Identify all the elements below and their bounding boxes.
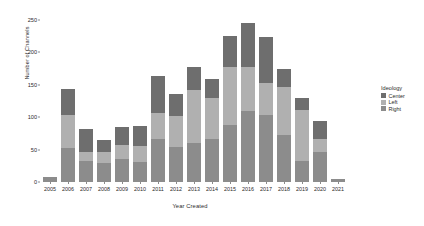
y-axis-tick-mark [38, 117, 40, 118]
x-axis-tick-mark [176, 182, 177, 184]
legend-item-label: Left [389, 99, 398, 105]
bar-2017 [259, 37, 273, 182]
x-axis-tick-mark [50, 182, 51, 184]
x-axis-tick-label: 2020 [314, 186, 326, 192]
x-axis-title: Year Created [40, 203, 340, 209]
bar-segment-center [259, 37, 273, 82]
bar-segment-center [295, 98, 309, 110]
bar-segment-right [205, 139, 219, 182]
bar-segment-right [97, 163, 111, 182]
bar-2009 [115, 127, 129, 182]
bar-segment-right [187, 143, 201, 182]
bar-2013 [187, 67, 201, 182]
bar-segment-center [79, 129, 93, 151]
legend-swatch-icon [381, 93, 386, 98]
legend-swatch-icon [381, 100, 386, 105]
bar-segment-center [97, 140, 111, 152]
x-axis-tick-mark [302, 182, 303, 184]
bar-segment-right [241, 111, 255, 182]
bar-segment-left [97, 152, 111, 163]
bar-2016 [241, 23, 255, 182]
bar-2014 [205, 79, 219, 182]
bar-segment-right [295, 161, 309, 182]
bar-segment-right [61, 148, 75, 182]
x-axis-tick-label: 2012 [170, 186, 182, 192]
x-axis-tick-label: 2017 [260, 186, 272, 192]
bar-segment-right [277, 135, 291, 182]
x-axis-tick-mark [230, 182, 231, 184]
bar-segment-center [115, 127, 129, 145]
bar-2010 [133, 126, 147, 182]
legend-item-center[interactable]: Center [381, 93, 405, 99]
bar-segment-center [61, 89, 75, 115]
legend-entries: CenterLeftRight [381, 93, 405, 112]
bar-segment-center [133, 126, 147, 147]
legend-item-left[interactable]: Left [381, 99, 405, 105]
x-axis-tick-label: 2019 [296, 186, 308, 192]
bar-2008 [97, 140, 111, 182]
bar-segment-left [115, 145, 129, 159]
x-axis-tick-label: 2011 [152, 186, 164, 192]
x-axis-tick-label: 2014 [206, 186, 218, 192]
bar-segment-center [151, 76, 165, 113]
x-axis-tick-mark [158, 182, 159, 184]
bar-segment-center [205, 79, 219, 98]
bar-segment-center [187, 67, 201, 90]
bar-segment-right [133, 162, 147, 182]
x-axis-tick-mark [122, 182, 123, 184]
bar-segment-left [277, 87, 291, 136]
x-axis-tick-label: 2018 [278, 186, 290, 192]
bar-segment-center [223, 36, 237, 66]
bar-segment-center [277, 69, 291, 87]
bar-2012 [169, 94, 183, 182]
bar-segment-left [295, 110, 309, 161]
x-axis-tick-label: 2007 [80, 186, 92, 192]
bar-2020 [313, 121, 327, 182]
bar-segment-left [61, 115, 75, 147]
y-axis-tick-mark [38, 19, 40, 20]
bar-2019 [295, 98, 309, 182]
y-axis-tick-mark [38, 149, 40, 150]
x-axis-tick-label: 2015 [224, 186, 236, 192]
bar-2015 [223, 36, 237, 182]
legend-item-right[interactable]: Right [381, 106, 405, 112]
bar-segment-right [115, 159, 129, 182]
bar-2018 [277, 69, 291, 182]
bar-2011 [151, 76, 165, 182]
bar-segment-center [313, 121, 327, 139]
bar-2007 [79, 129, 93, 182]
x-axis-tick-label: 2016 [242, 186, 254, 192]
legend-swatch-icon [381, 106, 386, 111]
x-axis-tick-mark [194, 182, 195, 184]
bar-segment-right [79, 161, 93, 182]
x-axis-tick-label: 2008 [98, 186, 110, 192]
bar-segment-left [151, 113, 165, 138]
x-axis-tick-label: 2005 [44, 186, 56, 192]
x-axis-tick-label: 2010 [134, 186, 146, 192]
x-axis-tick-mark [320, 182, 321, 184]
x-axis-tick-label: 2021 [332, 186, 344, 192]
x-axis-tick-mark [266, 182, 267, 184]
bar-segment-right [313, 152, 327, 182]
bar-segment-left [79, 152, 93, 162]
legend: Ideology CenterLeftRight [381, 85, 405, 112]
plot-area: 0501001502002502005200620072008200920102… [41, 12, 347, 182]
x-axis-tick-mark [86, 182, 87, 184]
bar-segment-right [223, 125, 237, 182]
bar-segment-left [205, 98, 219, 139]
bar-segment-left [187, 90, 201, 143]
x-axis-tick-mark [248, 182, 249, 184]
y-axis-tick-mark [38, 84, 40, 85]
x-axis-tick-mark [212, 182, 213, 184]
x-axis-tick-mark [104, 182, 105, 184]
bar-segment-center [241, 23, 255, 66]
x-axis-tick-label: 2009 [116, 186, 128, 192]
bar-2006 [61, 89, 75, 182]
x-axis-tick-mark [140, 182, 141, 184]
bar-segment-right [259, 115, 273, 182]
bar-segment-left [241, 67, 255, 111]
bar-segment-right [169, 147, 183, 182]
x-axis-tick-mark [284, 182, 285, 184]
x-axis-tick-mark [68, 182, 69, 184]
bar-segment-left [223, 67, 237, 125]
